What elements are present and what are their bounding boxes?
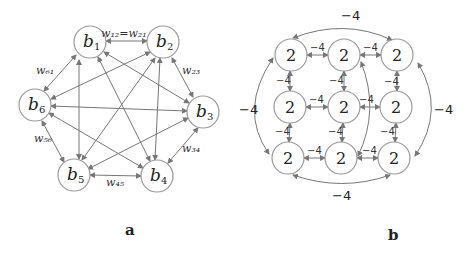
svg-text:2: 2 bbox=[336, 149, 346, 168]
svg-text:−4: −4 bbox=[341, 8, 360, 23]
node-b2: b2 bbox=[147, 26, 179, 58]
weight-w34: w₃₄ bbox=[182, 142, 200, 155]
weight-w45: w₄₅ bbox=[106, 176, 125, 189]
svg-text:−4: −4 bbox=[239, 102, 258, 117]
svg-text:−4: −4 bbox=[362, 145, 377, 156]
svg-text:2: 2 bbox=[339, 46, 349, 65]
svg-text:−4: −4 bbox=[307, 145, 322, 156]
figure: b1 b2 b3 b4 b5 b6 w₁₂=w₂₁ w₂₃ w₃₄ w₄₅ w₅… bbox=[0, 0, 464, 253]
svg-text:−4: −4 bbox=[275, 126, 290, 137]
svg-text:−4: −4 bbox=[332, 188, 351, 203]
weight-w56: w₅₆ bbox=[34, 132, 53, 145]
svg-text:2: 2 bbox=[285, 98, 295, 117]
svg-text:−4: −4 bbox=[329, 75, 344, 86]
svg-text:−4: −4 bbox=[359, 94, 374, 105]
node-b3: b3 bbox=[187, 96, 219, 128]
weight-w23: w₂₃ bbox=[182, 64, 200, 77]
svg-text:2: 2 bbox=[392, 46, 402, 65]
weight-w12: w₁₂=w₂₁ bbox=[101, 27, 147, 40]
weight-w61: w₆₁ bbox=[36, 64, 54, 77]
svg-text:−4: −4 bbox=[363, 42, 378, 53]
node-b5: b5 bbox=[58, 159, 90, 191]
caption-a: a bbox=[125, 221, 135, 239]
svg-text:2: 2 bbox=[389, 149, 399, 168]
svg-text:−4: −4 bbox=[384, 76, 399, 87]
panel-a-edges bbox=[42, 41, 198, 176]
svg-text:−4: −4 bbox=[309, 94, 324, 105]
svg-text:−4: −4 bbox=[276, 75, 291, 86]
svg-text:2: 2 bbox=[391, 98, 401, 117]
svg-text:2: 2 bbox=[286, 46, 296, 65]
node-b4: b4 bbox=[141, 160, 173, 192]
svg-text:−4: −4 bbox=[380, 126, 395, 137]
svg-text:−4: −4 bbox=[434, 102, 453, 117]
node-b6: b6 bbox=[19, 89, 51, 121]
svg-text:2: 2 bbox=[283, 149, 293, 168]
caption-b: b bbox=[388, 226, 399, 244]
svg-text:−4: −4 bbox=[310, 42, 325, 53]
svg-text:−4: −4 bbox=[328, 126, 343, 137]
svg-text:2: 2 bbox=[339, 98, 349, 117]
